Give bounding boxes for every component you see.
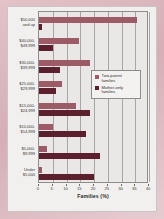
bar-two-parent — [39, 146, 47, 152]
bar-mother-only — [39, 174, 94, 180]
legend-label: Two-parentfamilies — [102, 74, 122, 83]
y-axis-label-line: $5,000 — [5, 172, 35, 177]
y-axis-label: $5,000-$9,999 — [5, 146, 35, 156]
y-axis-label-line: $49,999 — [5, 43, 35, 48]
legend-item: Mother-onlyfamilies — [95, 86, 138, 95]
bar-two-parent — [39, 81, 62, 87]
y-axis-label: $50,000and up — [5, 17, 35, 27]
x-axis-tick-label: 20 — [86, 186, 100, 192]
legend-label-line: families — [102, 90, 124, 95]
x-axis-tick-label: 5 — [45, 186, 59, 192]
x-axis-tick-label: 30 — [114, 186, 128, 192]
x-axis-title: Families (%) — [38, 193, 148, 199]
legend-label-line: families — [102, 79, 122, 84]
x-axis-tick-label: 25 — [100, 186, 114, 192]
y-axis-label: Under$5,000 — [5, 167, 35, 177]
figure-frame: $50,000and up$40,000-$49,999$30,000-$39,… — [0, 0, 164, 219]
bar-mother-only — [39, 110, 90, 116]
legend-item: Two-parentfamilies — [95, 74, 138, 83]
y-axis-label: $15,000-$24,999 — [5, 103, 35, 113]
y-axis-label-line: $39,999 — [5, 65, 35, 70]
bar-two-parent — [39, 124, 53, 130]
y-axis-label: $40,000-$49,999 — [5, 38, 35, 48]
bar-chart: $50,000and up$40,000-$49,999$30,000-$39,… — [7, 6, 157, 212]
x-axis-tick-label: 35 — [127, 186, 141, 192]
y-axis-label: $25,000-$29,999 — [5, 81, 35, 91]
x-axis-tick-label: 10 — [59, 186, 73, 192]
bar-group — [39, 34, 147, 56]
y-axis-label-line: $14,999 — [5, 129, 35, 134]
y-axis-label-line: and up — [5, 22, 35, 27]
y-axis-label: $10,000-$14,999 — [5, 124, 35, 134]
bar-group — [39, 163, 147, 185]
y-axis-label: $30,000-$39,999 — [5, 60, 35, 70]
bar-group — [39, 98, 147, 120]
legend-label: Mother-onlyfamilies — [102, 86, 124, 95]
bar-mother-only — [39, 67, 60, 73]
bar-mother-only — [39, 153, 100, 159]
legend-swatch-mother-only — [95, 86, 99, 90]
bar-two-parent — [39, 38, 79, 44]
bar-two-parent — [39, 167, 42, 173]
bar-group — [39, 12, 147, 34]
y-axis-label-line: $29,999 — [5, 86, 35, 91]
x-axis-tick-label: 40 — [141, 186, 155, 192]
bar-mother-only — [39, 88, 56, 94]
x-axis-tick-label: 0 — [31, 186, 45, 192]
x-axis-ticks: 0510152025303540 — [38, 184, 148, 192]
bar-two-parent — [39, 103, 76, 109]
bar-group — [39, 120, 147, 142]
gridline — [149, 12, 150, 182]
legend-swatch-two-parent — [95, 75, 99, 79]
bar-group — [39, 141, 147, 163]
bar-mother-only — [39, 45, 53, 51]
bar-mother-only — [39, 24, 42, 30]
y-axis-label-line: $24,999 — [5, 108, 35, 113]
y-axis-label-line: $9,999 — [5, 151, 35, 156]
x-axis-tick-label: 15 — [72, 186, 86, 192]
bar-two-parent — [39, 17, 137, 23]
y-axis-category-labels: $50,000and up$40,000-$49,999$30,000-$39,… — [7, 11, 37, 183]
bar-mother-only — [39, 131, 86, 137]
chart-legend: Two-parentfamiliesMother-onlyfamilies — [91, 70, 141, 99]
bar-two-parent — [39, 60, 90, 66]
